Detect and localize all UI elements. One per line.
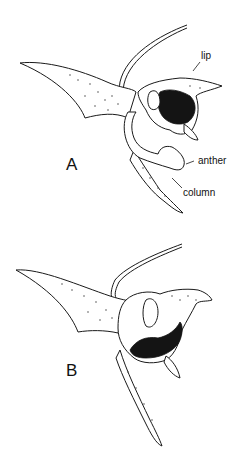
panel-a-anther-leader xyxy=(186,161,194,164)
panel-a-column-label: column xyxy=(183,187,215,198)
panel-b-sepal-left xyxy=(16,270,130,333)
panel-a-anther-label: anther xyxy=(198,155,227,166)
panel-a: lip anther column A xyxy=(20,25,227,213)
panel-b-hood xyxy=(143,299,158,327)
panel-a-lip-label: lip xyxy=(201,50,211,61)
panel-a-sepal-left xyxy=(20,62,136,118)
orchid-illustration: lip anther column A B xyxy=(0,0,236,459)
panel-b-petal-tip xyxy=(164,356,180,378)
panel-b: B xyxy=(16,244,212,446)
panel-b-lower-petal xyxy=(116,350,162,446)
panel-a-lip-leader xyxy=(193,62,200,71)
panel-b-stem xyxy=(111,244,182,298)
panel-a-letter: A xyxy=(66,155,78,174)
panel-a-column-leader xyxy=(172,178,182,188)
panel-b-letter: B xyxy=(66,361,77,380)
panel-a-petal-oval xyxy=(148,91,160,110)
